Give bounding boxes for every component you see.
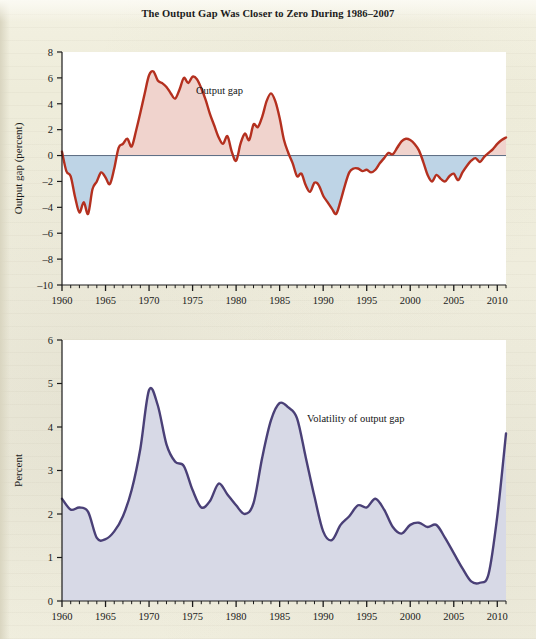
y-tick-label: 1: [48, 552, 53, 563]
y-tick-label: 5: [48, 378, 53, 389]
x-tick-label: 1965: [95, 611, 116, 622]
x-tick-label: 1970: [139, 611, 160, 622]
y-tick-label: 6: [48, 73, 53, 84]
volatility-annotation: Volatility of output gap: [307, 413, 405, 424]
y-tick-label: 0: [48, 596, 53, 607]
x-tick-label: 1990: [313, 611, 334, 622]
x-tick-label: 1985: [269, 611, 290, 622]
x-tick-label: 1995: [356, 611, 377, 622]
y-tick-label: 2: [48, 124, 53, 135]
x-tick-label: 2005: [443, 611, 464, 622]
y-tick-label: 2: [48, 509, 53, 520]
x-tick-label: 2000: [400, 295, 421, 306]
x-tick-label: 1970: [139, 295, 160, 306]
x-tick-label: 1975: [182, 611, 203, 622]
y-tick-label: –2: [42, 176, 54, 187]
x-tick-label: 1980: [226, 295, 247, 306]
y-tick-label: –6: [42, 228, 54, 239]
x-tick-label: 1990: [313, 295, 334, 306]
volatility-chart: 6543210196019651970197519801985199019952…: [0, 325, 536, 639]
output-gap-chart: 86420–2–4–6–8–10196019651970197519801985…: [0, 18, 536, 318]
volatility-plot: 6543210196019651970197519801985199019952…: [0, 325, 536, 639]
y-tick-label: 6: [48, 335, 53, 346]
y-tick-label: 8: [48, 47, 53, 58]
x-tick-label: 2010: [487, 295, 508, 306]
y-tick-label: 4: [48, 99, 54, 110]
output-gap-plot: 86420–2–4–6–8–10196019651970197519801985…: [0, 18, 536, 318]
x-tick-label: 1960: [52, 295, 73, 306]
x-tick-label: 1985: [269, 295, 290, 306]
output-gap-annotation: Output gap: [196, 85, 243, 96]
y-tick-label: 4: [48, 422, 54, 433]
y-tick-label: –8: [42, 254, 54, 265]
x-tick-label: 2000: [400, 611, 421, 622]
x-tick-label: 1995: [356, 295, 377, 306]
y-tick-label: –4: [42, 202, 54, 213]
y-tick-label: –10: [36, 280, 53, 291]
x-tick-label: 1975: [182, 295, 203, 306]
x-tick-label: 1980: [226, 611, 247, 622]
y-axis-title: Percent: [12, 454, 24, 487]
y-axis-title: Output gap (percent): [12, 122, 25, 214]
x-tick-label: 1960: [52, 611, 73, 622]
x-tick-label: 1965: [95, 295, 116, 306]
y-tick-label: 0: [48, 150, 53, 161]
x-tick-label: 2005: [443, 295, 464, 306]
x-tick-label: 2010: [487, 611, 508, 622]
y-tick-label: 3: [48, 465, 53, 476]
